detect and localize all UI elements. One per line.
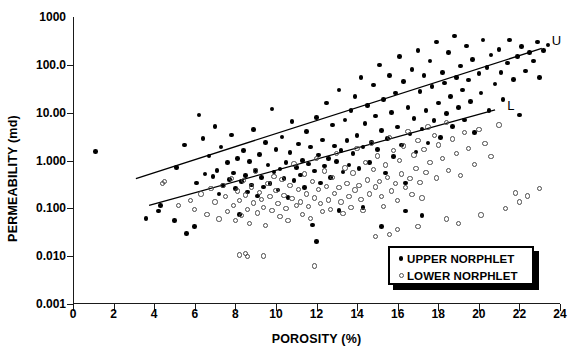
data-point: [201, 136, 206, 141]
data-point: [192, 224, 197, 229]
data-point: [460, 88, 465, 93]
data-point: [420, 127, 425, 132]
data-point: [259, 175, 264, 180]
data-point: [387, 73, 392, 78]
data-point: [270, 107, 275, 112]
data-point: [482, 141, 487, 146]
data-point: [466, 78, 471, 83]
data-point: [259, 197, 264, 202]
legend-item[interactable]: UPPER NORPHLET: [395, 250, 528, 267]
data-point: [188, 198, 193, 203]
data-point: [407, 176, 412, 181]
data-point: [340, 211, 345, 216]
data-point: [488, 154, 493, 159]
x-tick-label: 2: [99, 307, 129, 321]
data-point: [280, 135, 285, 140]
data-point: [365, 103, 370, 108]
data-point: [379, 128, 384, 133]
data-point: [318, 181, 323, 186]
data-point: [458, 64, 463, 69]
x-tick-label: 4: [139, 307, 169, 321]
data-point: [279, 177, 284, 182]
data-point: [285, 218, 290, 223]
data-point: [503, 206, 508, 211]
data-point: [444, 216, 449, 221]
data-point: [416, 48, 421, 53]
data-point: [501, 97, 506, 102]
data-point: [211, 174, 216, 179]
data-point: [515, 54, 520, 59]
data-point: [235, 188, 240, 193]
data-point: [352, 187, 357, 192]
data-point: [245, 254, 250, 259]
data-point: [519, 44, 524, 49]
data-point: [430, 84, 435, 89]
data-point: [537, 75, 542, 80]
data-point: [444, 120, 449, 125]
data-point: [223, 194, 228, 199]
data-point: [310, 179, 315, 184]
data-point: [436, 101, 441, 106]
data-point: [243, 192, 248, 197]
data-point: [379, 194, 384, 199]
data-point: [316, 187, 321, 192]
data-point: [470, 57, 475, 62]
legend-item[interactable]: LOWER NORPHLET: [395, 267, 528, 284]
data-point: [332, 144, 337, 149]
data-point: [517, 113, 522, 118]
data-point: [203, 172, 208, 177]
data-point: [401, 143, 406, 148]
data-point: [156, 209, 161, 214]
data-point: [456, 221, 461, 226]
data-point: [225, 160, 230, 165]
data-point: [278, 167, 283, 172]
data-point: [192, 207, 197, 212]
data-point: [419, 195, 424, 200]
data-point: [266, 163, 271, 168]
data-point: [381, 97, 386, 102]
data-point: [444, 111, 449, 116]
data-point: [351, 151, 356, 156]
data-point: [312, 169, 317, 174]
data-point: [399, 171, 404, 176]
data-point: [458, 173, 463, 178]
data-point: [291, 161, 296, 166]
data-point: [432, 133, 437, 138]
data-point: [288, 150, 293, 155]
data-point: [172, 218, 177, 223]
y-tick-label: 0.100: [18, 201, 66, 215]
data-point: [267, 194, 272, 199]
data-point: [391, 154, 396, 159]
data-point: [452, 34, 457, 39]
data-point: [446, 50, 451, 55]
x-tick-label: 8: [220, 307, 250, 321]
data-point: [365, 177, 370, 182]
x-tick-label: 6: [180, 307, 210, 321]
data-point: [174, 165, 179, 170]
data-point: [371, 83, 376, 88]
data-point: [513, 190, 518, 195]
data-point: [377, 63, 382, 68]
data-point: [348, 205, 353, 210]
data-point: [434, 175, 439, 180]
data-point: [423, 170, 428, 175]
data-point: [346, 194, 351, 199]
data-point: [511, 77, 516, 82]
data-point: [420, 213, 425, 218]
data-point: [144, 216, 149, 221]
data-point: [428, 59, 433, 64]
data-point: [387, 135, 392, 140]
data-point: [219, 145, 224, 150]
data-point: [397, 158, 402, 163]
data-point: [245, 207, 250, 212]
data-point: [442, 81, 447, 86]
data-point: [426, 141, 431, 146]
data-point: [229, 176, 234, 181]
data-point: [456, 105, 461, 110]
data-point: [310, 223, 315, 228]
data-point: [158, 203, 163, 208]
data-point: [450, 124, 455, 129]
data-point: [215, 168, 220, 173]
data-point: [371, 167, 376, 172]
data-point: [477, 71, 482, 76]
